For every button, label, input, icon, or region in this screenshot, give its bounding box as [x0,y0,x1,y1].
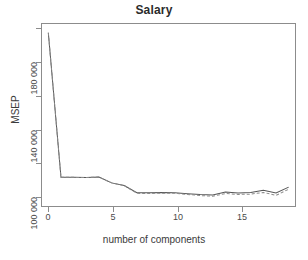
x-axis-title: number of components [0,234,308,245]
x-axis-tick-label-15: 15 [230,212,254,222]
plot-frame [41,23,296,207]
y-axis-tick-label-140000: 140 000 [29,130,39,190]
series-line-CV [48,33,288,195]
x-axis-tick-label-0: 0 [36,212,60,222]
y-axis-tick-label-100000: 100 000 [29,197,39,257]
y-axis-tick-label-180000: 180 000 [29,62,39,122]
x-axis-tick-label-5: 5 [101,212,125,222]
series-line-adjCV [48,33,288,196]
y-axis-title: MSEP [10,80,21,140]
chart-title: Salary [0,3,308,17]
plot-area [42,24,295,206]
chart-root: Salary 180 000 140 000 100 000 MSEP 0 5 … [0,0,308,260]
series-canvas [42,24,295,206]
x-axis-tick-label-10: 10 [166,212,190,222]
